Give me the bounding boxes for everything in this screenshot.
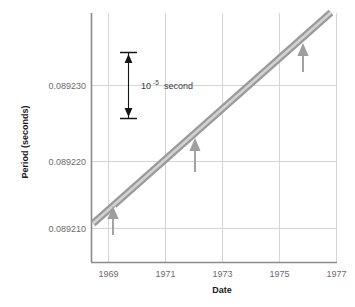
scale-bar-label-base: 10 (141, 81, 151, 91)
x-tick-label-1973: 1973 (212, 269, 232, 279)
y-tick-label-0-089230: 0.089230 (48, 81, 86, 91)
x-tick-label-1975: 1975 (269, 269, 289, 279)
x-tick-label-1971: 1971 (155, 269, 175, 279)
y-tick-label-0-089210: 0.089210 (48, 224, 86, 234)
x-tick-label-1977: 1977 (326, 269, 346, 279)
y-axis-title: Period (seconds) (20, 105, 30, 178)
chart-figure: 10 -5 second 0.089230 0.089220 0.089210 … (0, 0, 355, 307)
x-axis-title: Date (212, 285, 232, 295)
period-vs-date-chart: 10 -5 second 0.089230 0.089220 0.089210 … (0, 0, 355, 307)
scale-bar-label-unit: second (164, 81, 193, 91)
x-tick-label-1969: 1969 (98, 269, 118, 279)
scale-bar-label-exponent: -5 (153, 79, 159, 86)
y-tick-label-0-089220: 0.089220 (48, 157, 86, 167)
